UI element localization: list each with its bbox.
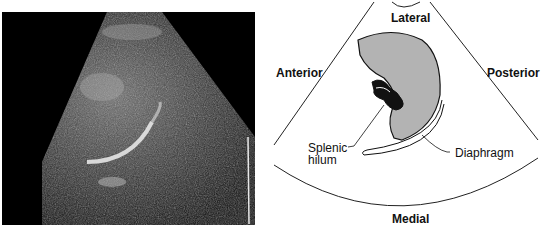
ultrasound-image [2,12,255,225]
ultrasound-sector [2,12,255,225]
label-hilum: hilum [308,153,337,167]
schematic-drawing [272,0,544,234]
spleen-schematic: Lateral Anterior Posterior Medial Spleni… [272,0,544,234]
label-posterior: Posterior [487,66,540,80]
hilum-leader [348,105,384,147]
depth-scale-bar [248,137,249,224]
label-lateral: Lateral [391,11,430,25]
label-diaphragm: Diaphragm [455,146,514,160]
diaphragm-leader [422,135,450,152]
label-medial: Medial [392,212,429,226]
label-anterior: Anterior [276,66,323,80]
transducer-arc [392,2,420,7]
